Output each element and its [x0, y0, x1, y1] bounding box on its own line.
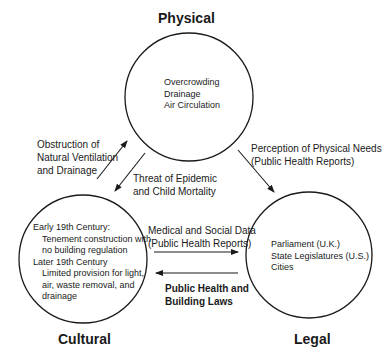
label-physical-to-cultural: Threat of Epidemic and Child Mortality	[133, 172, 217, 198]
label-line: Threat of Epidemic	[133, 172, 217, 185]
label-line: and Drainage	[37, 164, 118, 177]
cultural-items: Early 19th Century: Tenement constructio…	[33, 222, 151, 303]
label-line: Public Health and	[165, 282, 249, 295]
label-cultural-to-legal: Medical and Social Data (Public Health R…	[148, 224, 256, 250]
cultural-heading: Later 19th Century	[33, 257, 151, 269]
cultural-heading: Early 19th Century:	[33, 222, 151, 234]
label-line: Medical and Social Data	[148, 224, 256, 237]
legal-title: Legal	[294, 331, 331, 347]
label-line: Perception of Physical Needs	[251, 142, 382, 155]
label-legal-to-cultural: Public Health and Building Laws	[165, 282, 249, 308]
physical-items: Overcrowding Drainage Air Circulation	[164, 77, 220, 112]
label-line: Natural Ventilation	[37, 151, 118, 164]
label-physical-to-legal: Perception of Physical Needs (Public Hea…	[251, 142, 382, 168]
legal-item: Parliament (U.K.)	[271, 239, 369, 251]
physical-item: Air Circulation	[164, 100, 220, 112]
label-line: (Public Health Reports)	[251, 155, 382, 168]
label-cultural-to-physical: Obstruction of Natural Ventilation and D…	[37, 138, 118, 177]
physical-title: Physical	[158, 10, 215, 26]
legal-item: Cities	[271, 262, 369, 274]
label-line: and Child Mortality	[133, 185, 217, 198]
cultural-line: Limited provision for light,	[33, 268, 151, 280]
legal-item: State Legislatures (U.S.)	[271, 251, 369, 263]
cultural-line: Tenement construction with	[33, 234, 151, 246]
label-line: (Public Health Reports)	[148, 237, 256, 250]
legal-items: Parliament (U.K.) State Legislatures (U.…	[271, 239, 369, 274]
physical-item: Overcrowding	[164, 77, 220, 89]
cultural-line: drainage	[33, 291, 151, 303]
cultural-line: no building regulation	[33, 245, 151, 257]
label-line: Building Laws	[165, 295, 249, 308]
physical-item: Drainage	[164, 89, 220, 101]
label-line: Obstruction of	[37, 138, 118, 151]
cultural-line: air, waste removal, and	[33, 280, 151, 292]
cultural-title: Cultural	[58, 331, 111, 347]
